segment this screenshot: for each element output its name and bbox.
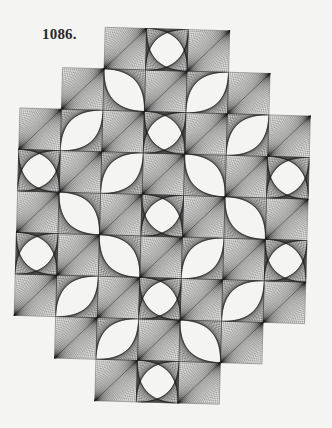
grid-cell-lens-nesw [226,114,269,157]
grid-cell-hatch [220,321,263,364]
grid-cell-star [267,156,310,199]
grid-cell-star [143,111,186,154]
grid-cell-hatch [140,236,183,279]
grid-cell-hatch [265,198,308,241]
grid-cell-hatch [223,238,266,281]
grid-cell-hatch [180,279,223,322]
grid-cell-hatch [59,151,102,194]
grid-cell-lens-nwse [179,320,222,363]
grid-cell-hatch [144,70,187,113]
grid-cell-lens-nesw [186,71,229,114]
grid-cell-star [139,277,182,320]
string-art-svg [0,0,332,428]
grid-cell-star [15,232,58,275]
grid-cell-hatch [137,319,180,362]
grid-cell-lens-nwse [58,192,101,235]
grid-cell-lens-nesw [60,109,103,152]
grid-cell-star [146,28,189,71]
grid-cell-hatch [268,115,311,158]
grid-cell-hatch [19,108,62,151]
grid-cell-star [141,194,184,237]
string-art-figure [0,0,332,428]
cell-grid [12,25,313,406]
grid-cell-hatch [225,155,268,198]
grid-cell-hatch [99,193,142,236]
grid-cell-star [264,239,307,282]
grid-cell-lens-nwse [184,154,227,197]
grid-cell-hatch [54,317,97,360]
grid-cell-hatch [182,196,225,239]
grid-cell-hatch [263,281,306,324]
grid-cell-hatch [187,30,230,73]
grid-cell-hatch [142,153,185,196]
grid-cell-hatch [178,362,221,405]
grid-cell-hatch [95,359,138,402]
grid-cell-hatch [102,110,145,153]
grid-cell-lens-nwse [103,69,146,112]
grid-cell-star [136,360,179,403]
grid-cell-hatch [16,191,59,234]
grid-cell-hatch [97,276,140,319]
grid-cell-lens-nesw [222,280,265,323]
grid-cell-lens-nesw [101,152,144,195]
grid-cell-hatch [185,113,228,156]
grid-cell-lens-nesw [96,318,139,361]
grid-cell-hatch [104,27,147,70]
grid-cell-hatch [227,72,270,115]
grid-cell-lens-nesw [181,237,224,280]
grid-cell-lens-nwse [224,197,267,240]
grid-cell-lens-nesw [56,275,99,318]
grid-cell-hatch [61,68,104,111]
grid-cell-hatch [57,234,100,277]
grid-cell-hatch [14,274,57,317]
grid-cell-lens-nwse [98,235,141,278]
grid-cell-star [18,149,61,192]
